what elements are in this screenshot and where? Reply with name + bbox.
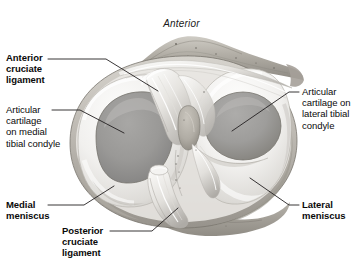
label-articular-cartilage-lateral-tibial-condyle: Articular cartilage on lateral tibial co…: [302, 86, 351, 131]
orientation-label-anterior: Anterior: [0, 18, 363, 29]
label-lateral-meniscus: Lateral meniscus: [302, 199, 345, 221]
label-articular-cartilage-medial-tibial-condyle: Articular cartilage on medial tibial con…: [6, 104, 60, 149]
label-posterior-cruciate-ligament: Posterior cruciate ligament: [62, 225, 103, 259]
label-medial-meniscus: Medial meniscus: [6, 199, 49, 221]
label-anterior-cruciate-ligament: Anterior cruciate ligament: [6, 52, 45, 86]
anatomy-figure: Anterior Anterior cruciate ligament Arti…: [0, 0, 363, 271]
